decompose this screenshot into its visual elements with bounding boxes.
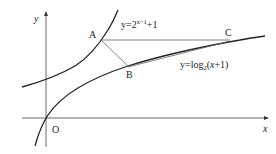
segment-ab (101, 40, 128, 66)
function-graph-diagram: y x O A B C y=2x−1+1 y=log2(x+1) (0, 0, 276, 154)
exponential-curve-label: y=2x−1+1 (121, 18, 157, 30)
logarithm-curve-label: y=log2(x+1) (180, 59, 228, 71)
y-axis-label: y (33, 13, 39, 24)
point-a-label: A (89, 29, 97, 40)
diagram-canvas: y x O A B C y=2x−1+1 y=log2(x+1) (0, 0, 276, 154)
origin-label: O (52, 124, 59, 135)
point-b-label: B (126, 69, 133, 80)
point-c-label: C (225, 27, 232, 38)
logarithm-curve (35, 36, 265, 146)
x-axis-label: x (262, 123, 268, 134)
